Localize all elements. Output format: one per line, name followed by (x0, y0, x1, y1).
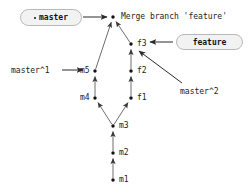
commit-node-m2[interactable] (111, 151, 114, 154)
commit-node-f3[interactable] (129, 42, 132, 45)
commit-node-m4[interactable] (93, 96, 96, 99)
commit-label-m4: m4 (80, 93, 90, 102)
git-commit-graph-diagram: master feature Merge branch 'feature' f3… (0, 0, 248, 194)
commit-label-f2: f2 (137, 66, 147, 75)
ref-label-feature-text: feature (193, 38, 227, 47)
graph-edges-layer (0, 0, 248, 194)
commit-label-m1: m1 (119, 175, 129, 184)
annotation-master-caret-2: master^2 (180, 87, 219, 96)
ref-bullet-icon (34, 17, 36, 19)
commit-label-m2: m2 (119, 148, 129, 157)
ref-label-master-text: master (39, 13, 68, 22)
commit-label-m3: m3 (119, 121, 129, 130)
commit-label-f1: f1 (137, 93, 147, 102)
ref-label-feature[interactable]: feature (176, 34, 243, 50)
annotation-master-caret-1: master^1 (11, 66, 50, 75)
commit-node-merge[interactable] (111, 15, 114, 18)
commit-node-f2[interactable] (129, 69, 132, 72)
commit-node-m5[interactable] (93, 69, 96, 72)
commit-label-f3: f3 (137, 39, 147, 48)
edge-m3-to-m4 (98, 103, 112, 125)
commit-node-f1[interactable] (129, 96, 132, 99)
ref-label-master[interactable]: master (20, 9, 82, 26)
edge-m5-to-merge (96, 22, 112, 69)
merge-commit-message: Merge branch 'feature' (121, 12, 227, 21)
commit-node-m1[interactable] (111, 178, 114, 181)
commit-label-m5: m5 (80, 66, 90, 75)
edge-f3-to-merge (116, 22, 130, 43)
commit-node-m3[interactable] (111, 124, 114, 127)
